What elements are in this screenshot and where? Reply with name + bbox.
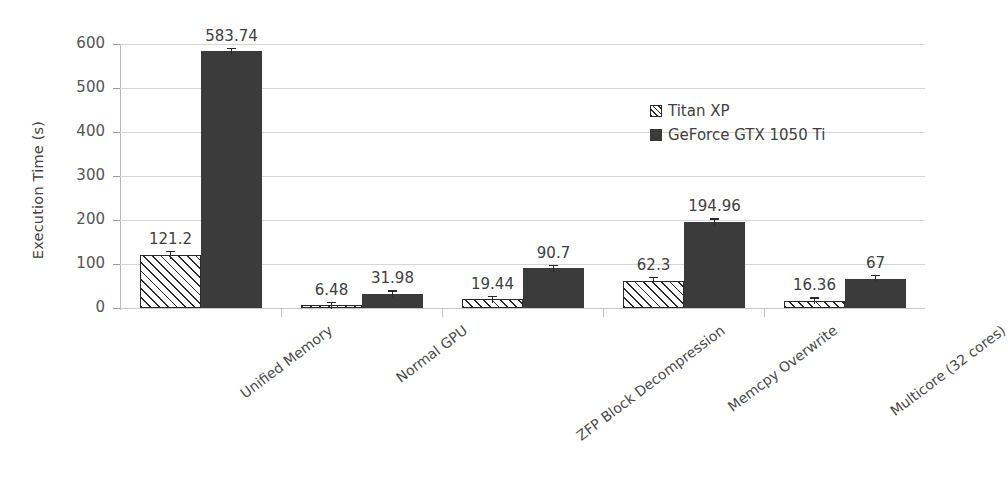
x-axis-label: Unified Memory	[237, 322, 335, 401]
bar[interactable]	[201, 51, 262, 308]
x-axis-label: Multicore (32 cores)	[887, 322, 1008, 419]
bar[interactable]	[845, 279, 906, 308]
error-bar-cap	[649, 277, 658, 278]
error-bar-cap	[227, 48, 236, 49]
legend-label-titan-xp: Titan XP	[668, 102, 730, 120]
error-bar-cap	[488, 296, 497, 297]
y-axis-tick-label: 0	[0, 300, 105, 315]
gridline	[120, 308, 925, 309]
bar-value-label: 31.98	[348, 271, 438, 286]
x-axis-label: ZFP Block Decompression	[573, 322, 727, 444]
y-axis-tick-label: 100	[0, 256, 105, 271]
legend-swatch-hatched	[650, 105, 662, 117]
error-bar-cap	[327, 302, 336, 303]
x-axis-tick	[442, 308, 443, 317]
legend-item-geforce-gtx-1050-ti[interactable]: GeForce GTX 1050 Ti	[650, 124, 825, 145]
y-axis-tick-label: 300	[0, 168, 105, 183]
x-axis-tick	[764, 308, 765, 317]
bar[interactable]	[523, 268, 584, 308]
bar-value-label: 194.96	[670, 199, 760, 214]
x-axis-label: Normal GPU	[393, 322, 470, 386]
bar[interactable]	[140, 255, 201, 308]
bar-value-label: 90.7	[509, 246, 599, 261]
legend-label-geforce-gtx-1050-ti: GeForce GTX 1050 Ti	[668, 126, 825, 144]
error-bar-cap	[710, 218, 719, 219]
error-bar-cap	[388, 290, 397, 291]
bar[interactable]	[623, 281, 684, 308]
bar[interactable]	[684, 222, 745, 308]
bar-value-label: 67	[831, 256, 921, 271]
y-axis-tick-label: 400	[0, 124, 105, 139]
error-bar-cap	[871, 275, 880, 276]
legend: Titan XP GeForce GTX 1050 Ti	[650, 100, 825, 148]
y-axis-tick-label: 600	[0, 36, 105, 51]
x-axis-label: Memcpy Overwrite	[724, 322, 839, 415]
error-bar-cap	[810, 297, 819, 298]
x-axis-tick	[281, 308, 282, 317]
x-axis-tick	[603, 308, 604, 317]
bar-value-label: 583.74	[187, 29, 277, 44]
legend-swatch-solid	[650, 129, 662, 141]
error-bar-cap	[549, 265, 558, 266]
y-axis-tick-label: 200	[0, 212, 105, 227]
legend-item-titan-xp[interactable]: Titan XP	[650, 100, 825, 121]
y-axis-tick-label: 500	[0, 80, 105, 95]
error-bar-cap	[166, 251, 175, 252]
